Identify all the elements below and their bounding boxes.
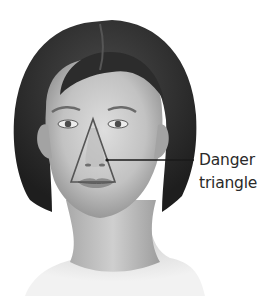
danger-label-line2: triangle [199, 172, 257, 194]
leader-dot [105, 158, 108, 161]
face-illustration [0, 0, 274, 296]
danger-label-line1: Danger [199, 149, 255, 171]
